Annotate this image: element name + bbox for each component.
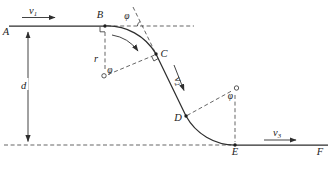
radius-label-r: r [94,53,99,64]
track-path [9,26,328,145]
curvature-center-bottom-icon [234,86,238,90]
angle-arc-top [137,22,140,27]
angle-label-phi-center-bottom: φ [228,91,233,101]
diagram-canvas: A B C D E F d r φ φ φ v1 v2 v3 [0,0,334,173]
point-dot-B [103,24,106,27]
physics-ramp-diagram: A B C D E F d r φ φ φ v1 v2 v3 [0,0,334,173]
height-label-d: d [21,80,27,91]
right-angle-marker-B [100,27,105,32]
velocity-label-v3: v3 [273,127,282,139]
radius-to-D-dashed-line [187,91,233,116]
rotation-direction-arrow-icon [112,35,138,51]
point-label-C: C [161,48,169,59]
point-label-E: E [231,146,239,157]
point-label-D: D [173,112,182,123]
point-dot-C [154,52,157,55]
slope-extension-dashed-line [133,7,155,52]
point-label-B: B [97,9,104,20]
angle-label-phi-center-top: φ [107,65,112,75]
v1-sub: 1 [34,10,37,17]
velocity-label-v1: v1 [29,5,37,17]
point-label-F: F [316,146,324,157]
curvature-center-top-icon [102,74,106,78]
velocity-label-v2: v2 [172,74,187,87]
radius-to-C-dashed-line [108,55,156,75]
point-dot-D [184,114,187,117]
angle-label-phi-top: φ [124,11,129,21]
v3-sub: 3 [277,132,282,139]
point-label-A: A [2,26,10,37]
